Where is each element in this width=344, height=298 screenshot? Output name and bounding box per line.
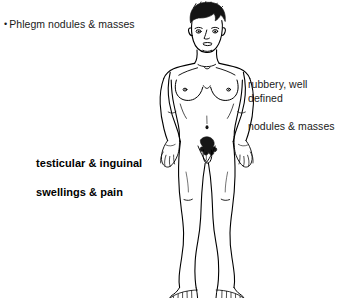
bullet-annotation-text: Phlegm nodules & masses xyxy=(9,18,134,30)
feet xyxy=(170,287,244,298)
arms xyxy=(160,78,253,140)
left-annotation: testicular & inguinal swellings & pain xyxy=(36,141,142,214)
head xyxy=(189,21,226,53)
right-annotation-line2: nodules & masses xyxy=(248,119,344,133)
face-features xyxy=(195,27,219,51)
bullet-marker: • xyxy=(4,19,7,29)
right-annotation-line1: rubbery, well defined xyxy=(248,77,344,105)
illustration-canvas: •Phlegm nodules & masses rubbery, well d… xyxy=(0,0,344,298)
left-annotation-line1: testicular & inguinal xyxy=(36,156,142,171)
legs xyxy=(179,142,235,288)
bullet-annotation: •Phlegm nodules & masses xyxy=(4,4,135,31)
right-annotation: rubbery, well defined nodules & masses xyxy=(248,63,344,147)
hair-icon xyxy=(190,2,225,23)
left-annotation-line2: swellings & pain xyxy=(36,185,142,200)
neck-and-shoulders xyxy=(164,50,250,79)
